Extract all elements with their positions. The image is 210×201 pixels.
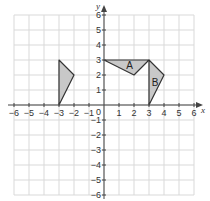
y-tick-label: 6	[96, 10, 101, 20]
y-tick-label: −4	[91, 160, 101, 170]
x-tick-label: −5	[24, 108, 34, 118]
y-axis-arrow-icon	[101, 5, 107, 12]
x-tick-label: 1	[116, 108, 121, 118]
shape-label-a: A	[126, 60, 133, 71]
x-tick-label: 3	[146, 108, 151, 118]
y-tick-label: −6	[91, 190, 101, 200]
x-tick-label: 6	[191, 108, 196, 118]
y-tick-label: 4	[96, 40, 101, 50]
shape-unlabeled	[59, 60, 74, 105]
axes: xy	[8, 1, 205, 199]
shape-label-b: B	[152, 77, 159, 88]
y-tick-label: −5	[91, 175, 101, 185]
x-axis-label: x	[200, 105, 205, 115]
x-tick-label: −4	[39, 108, 49, 118]
x-tick-label: −2	[69, 108, 79, 118]
coordinate-grid: AB xy −6−5−4−3−2−1123456654321−1−2−3−4−5…	[0, 0, 210, 201]
x-tick-label: −6	[9, 108, 19, 118]
shapes: AB	[59, 60, 164, 105]
y-tick-label: −2	[91, 130, 101, 140]
y-tick-label: 2	[96, 70, 101, 80]
origin-label: 0	[96, 107, 101, 117]
x-tick-label: 2	[131, 108, 136, 118]
y-tick-label: −3	[91, 145, 101, 155]
y-tick-label: 3	[96, 55, 101, 65]
y-tick-label: 5	[96, 25, 101, 35]
x-tick-label: 4	[161, 108, 166, 118]
y-tick-label: 1	[96, 85, 101, 95]
x-tick-label: −3	[54, 108, 64, 118]
x-tick-label: 5	[176, 108, 181, 118]
